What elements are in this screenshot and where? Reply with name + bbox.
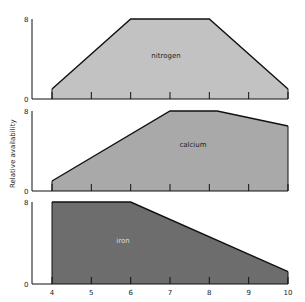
iron-area [52,202,288,284]
y-tick-min: 0 [24,96,28,104]
y-tick-max: 8 [24,16,28,24]
y-tick-max: 8 [24,108,28,116]
x-tick-label: 6 [128,289,133,297]
calcium-label: calcium [179,141,206,149]
x-tick-label: 8 [207,289,211,297]
y-axis-label: Relative availability [9,119,17,188]
soil-nutrient-availability-chart: Relative availability 80nitrogen80calciu… [0,0,305,302]
panel-iron: 80iron [24,199,288,289]
x-tick-label: 7 [168,289,172,297]
y-tick-max: 8 [24,199,28,207]
iron-label: iron [116,237,129,245]
x-tick-label: 9 [246,289,250,297]
x-tick-label: 4 [50,289,55,297]
x-axis-tick-labels: 45678910 [50,289,293,297]
nitrogen-label: nitrogen [151,52,180,60]
calcium-area [52,111,288,191]
x-tick-label: 10 [284,289,293,297]
panel-calcium: 80calcium [24,108,288,196]
x-tick-label: 5 [89,289,93,297]
y-tick-min: 0 [24,281,28,289]
panel-nitrogen: 80nitrogen [24,16,288,104]
y-tick-min: 0 [24,188,28,196]
